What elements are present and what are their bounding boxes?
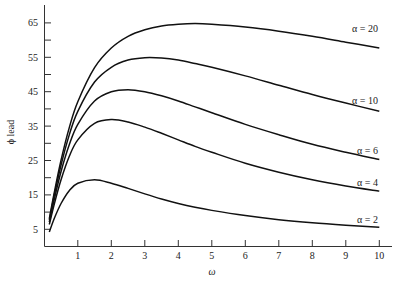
curve-alpha-10 [49,57,379,220]
x-tick-label: 9 [343,250,348,261]
curve-label-alpha-6: α = 6 [357,145,378,156]
curve-alpha-2 [49,180,379,232]
curve-label-alpha-4: α = 4 [357,177,378,188]
curve-alpha-6 [49,90,379,222]
y-ticks: 5152535455565 [28,17,51,234]
x-tick-label: 5 [209,250,214,261]
y-axis-title: ϕ lead [5,120,16,144]
y-tick-label: 65 [28,17,38,28]
x-tick-label: 1 [75,250,80,261]
y-tick-label: 5 [33,224,38,235]
curve-alpha-4 [49,120,379,225]
x-tick-label: 7 [276,250,281,261]
x-tick-label: 10 [374,250,384,261]
x-axis-title: ω [208,266,215,277]
curve-label-alpha-2: α = 2 [357,214,378,225]
x-tick-label: 2 [109,250,114,261]
y-tick-label: 15 [28,189,38,200]
series-labels: α = 20α = 10α = 6α = 4α = 2 [352,23,378,225]
x-tick-label: 6 [243,250,248,261]
curve-label-alpha-20: α = 20 [352,23,378,34]
phase-lead-chart: 12345678910 5152535455565 α = 20α = 10α … [0,0,400,283]
x-tick-label: 8 [310,250,315,261]
y-tick-label: 25 [28,155,38,166]
x-ticks: 12345678910 [75,240,384,261]
series-lines [49,24,379,232]
x-tick-label: 3 [142,250,147,261]
x-tick-label: 4 [176,250,181,261]
y-tick-label: 55 [28,52,38,63]
y-tick-label: 35 [28,121,38,132]
curve-label-alpha-10: α = 10 [352,95,378,106]
y-tick-label: 45 [28,86,38,97]
